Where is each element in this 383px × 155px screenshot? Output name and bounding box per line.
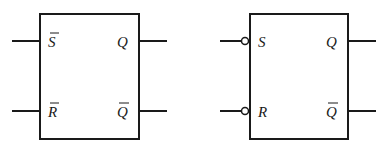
right-latch-block [220, 14, 376, 139]
left-output-q-label: Q [117, 34, 128, 50]
right-r-inversion-bubble [242, 108, 249, 115]
right-input-s-label: S [258, 34, 266, 50]
right-s-inversion-bubble [242, 38, 249, 45]
right-output-qbar-label: Q [326, 104, 337, 120]
left-latch-labels: S R Q Q [47, 33, 129, 120]
right-output-q-label: Q [326, 34, 337, 50]
right-latch-box [250, 14, 348, 139]
right-input-r-label: R [257, 104, 267, 120]
left-output-qbar-label: Q [117, 104, 128, 120]
left-input-s-label: S [48, 34, 56, 50]
left-latch-block [12, 14, 167, 139]
left-input-r-label: R [47, 104, 57, 120]
right-latch-labels: S R Q Q [257, 34, 338, 120]
sr-latch-diagram: S R Q Q S R Q Q [0, 0, 383, 155]
